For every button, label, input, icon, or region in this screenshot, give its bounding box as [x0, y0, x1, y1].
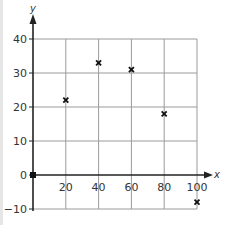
x-tick-label: 20: [59, 181, 73, 194]
y-tick-label: 20: [13, 101, 27, 114]
y-tick-label: −10: [4, 203, 27, 216]
y-axis-label: y: [29, 3, 37, 14]
data-points: [30, 60, 200, 204]
x-tick-label: 100: [187, 181, 208, 194]
x-tick-labels: 20406080100: [59, 181, 208, 194]
scatter-chart: 403020100−10 20406080100 x y: [0, 0, 229, 225]
x-axis-arrow-icon: [204, 172, 213, 179]
x-tick-label: 60: [124, 181, 138, 194]
y-tick-labels: 403020100−10: [4, 33, 27, 216]
grid: [33, 39, 197, 209]
x-tick-label: 80: [157, 181, 171, 194]
y-tick-label: 40: [13, 33, 27, 46]
x-tick-label: 40: [92, 181, 106, 194]
axes: [29, 14, 213, 211]
y-tick-label: 30: [13, 67, 27, 80]
x-axis-label: x: [213, 169, 220, 180]
y-tick-label: 0: [20, 169, 27, 182]
y-axis-arrow-icon: [30, 14, 37, 24]
y-tick-label: 10: [13, 135, 27, 148]
origin-point-marker: [30, 172, 36, 178]
